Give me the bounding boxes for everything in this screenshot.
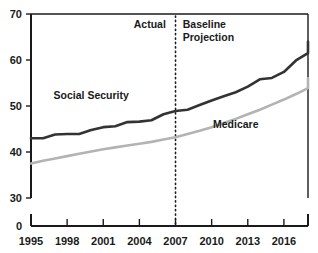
- x-axis-tick-label: 2001: [91, 235, 115, 247]
- x-axis-tick-group: 19951998200120042007201020132016: [19, 219, 296, 247]
- x-axis-tick-label: 2016: [272, 235, 296, 247]
- x-axis-tick-label: 1998: [55, 235, 79, 247]
- y-axis-tick-label: 60: [10, 54, 22, 66]
- chart-container: 70605040300 1995199820012004200720102013…: [0, 0, 318, 253]
- series-label-social-security: Social Security: [54, 89, 129, 101]
- x-axis-tick-label: 2004: [127, 235, 152, 247]
- x-axis-tick-label: 1995: [19, 235, 43, 247]
- series-group: [31, 42, 308, 164]
- y-axis-tick-label: 70: [10, 8, 22, 20]
- annotation-group: ActualBaselineProjection: [134, 18, 234, 43]
- annotation-baseline-projection-line1: Baseline: [183, 18, 226, 30]
- annotation-actual: Actual: [134, 18, 166, 30]
- y-axis-tick-label: 40: [10, 146, 22, 158]
- annotation-baseline-projection-line2: Projection: [183, 31, 234, 43]
- y-axis-tick-group: 70605040300: [10, 8, 31, 232]
- x-axis-tick-label: 2007: [163, 235, 187, 247]
- axes-group: [31, 14, 308, 226]
- y-axis-tick-label: 30: [10, 192, 22, 204]
- line-chart: 70605040300 1995199820012004200720102013…: [0, 0, 318, 253]
- y-axis-tick-label: 0: [16, 220, 22, 232]
- series-label-medicare: Medicare: [213, 118, 259, 130]
- y-axis-tick-label: 50: [10, 100, 22, 112]
- x-axis-tick-label: 2010: [199, 235, 223, 247]
- x-axis-tick-label: 2013: [236, 235, 260, 247]
